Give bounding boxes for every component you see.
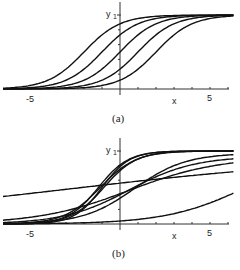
x-tick-label: 5	[207, 228, 212, 238]
curve	[3, 155, 233, 224]
curves	[3, 151, 233, 224]
x-axis-label: x	[172, 231, 177, 241]
curve	[3, 15, 233, 88]
curve	[3, 151, 233, 224]
x-tick-label: 5	[207, 93, 212, 103]
y-axis-label: y	[106, 9, 111, 19]
curve	[3, 15, 233, 89]
curve	[3, 15, 233, 89]
curve	[3, 151, 233, 224]
x-tick-label: -5	[26, 229, 34, 239]
curve	[3, 172, 233, 197]
caption-b: (b)	[112, 247, 125, 260]
y-tick-label: 1	[113, 13, 117, 20]
caption-a: (a)	[112, 112, 125, 125]
curve	[3, 151, 233, 224]
curve	[3, 15, 233, 89]
curves	[3, 15, 233, 89]
x-axis-label: x	[172, 96, 177, 106]
panel-b: -5 5 x y 1 (b)	[3, 138, 233, 260]
curve	[3, 16, 233, 89]
curve	[3, 151, 233, 224]
curve	[3, 193, 233, 224]
y-tick-label: 1	[113, 149, 117, 156]
y-axis-label: y	[106, 145, 111, 155]
x-tick-label: -5	[26, 94, 34, 104]
panel-a: -5 5 x y 1 (a)	[3, 2, 233, 125]
figure: -5 5 x y 1 (a) -5 5 x y 1 (b)	[0, 0, 240, 270]
